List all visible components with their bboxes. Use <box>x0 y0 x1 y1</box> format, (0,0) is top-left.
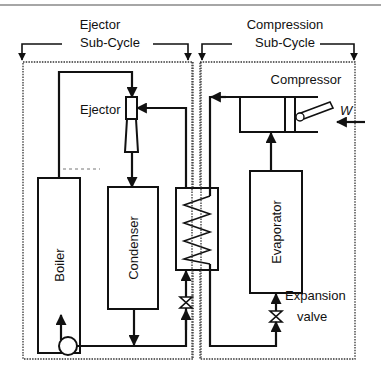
compressor-crank <box>296 102 333 121</box>
evaporator-label: Evaporator <box>269 200 284 264</box>
compression-subcycle-label-1: Compression <box>247 17 324 32</box>
work-input-label: W <box>340 103 354 118</box>
compressor-outlet-line <box>210 97 240 196</box>
condenser-label: Condenser <box>126 216 141 280</box>
ejector-diffuser <box>125 119 138 152</box>
ejector <box>126 97 137 119</box>
bottom-return-line <box>77 305 186 346</box>
cycle-diagram: Ejector Sub-Cycle Compression Sub-Cycle … <box>0 0 381 387</box>
throttle-valve <box>180 297 192 308</box>
compression-subcycle-label-2: Sub-Cycle <box>255 35 315 50</box>
expansion-valve-label-2: valve <box>297 309 327 324</box>
expansion-valve <box>270 311 282 322</box>
boiler-to-ejector-line <box>59 72 132 178</box>
boiler-label: Boiler <box>52 248 67 282</box>
expansion-valve-label-1: Expansion <box>285 288 346 303</box>
ejector-label: Ejector <box>80 102 121 117</box>
ejector-subcycle-label-1: Ejector <box>80 17 121 32</box>
compressor-label: Compressor <box>271 72 342 87</box>
compressor-cylinder <box>240 97 295 132</box>
ejector-subcycle-label-2: Sub-Cycle <box>80 35 140 50</box>
